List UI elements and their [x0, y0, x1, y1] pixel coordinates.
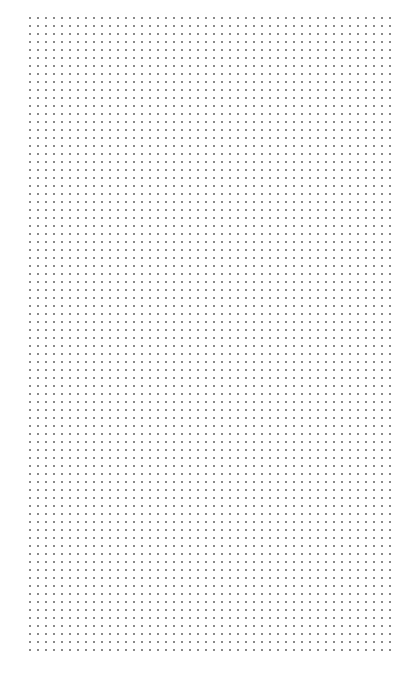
dot-grid-sheet [0, 0, 412, 679]
dot-grid [26, 14, 394, 654]
